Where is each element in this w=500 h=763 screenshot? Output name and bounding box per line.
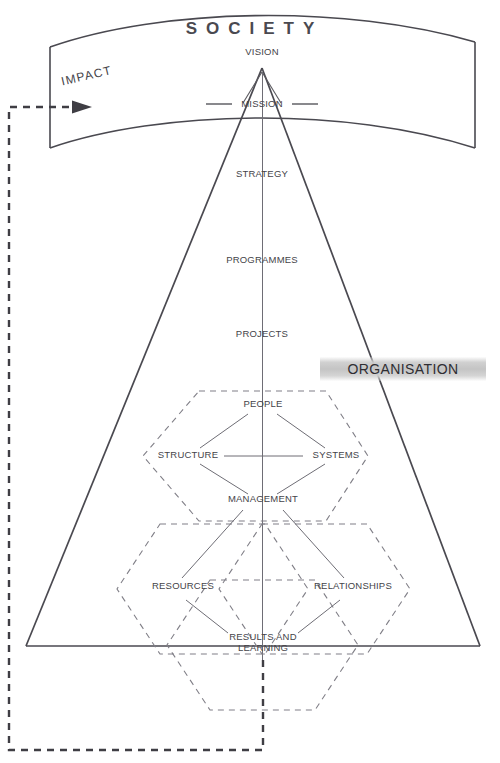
org-node-resources: RESOURCES — [141, 581, 225, 592]
connector-management-relationships — [283, 510, 344, 578]
pyramid-label-projects: PROJECTS — [212, 329, 312, 340]
connector-resources-results — [186, 600, 228, 633]
connector-people-structure — [200, 414, 248, 448]
org-node-management: MANAGEMENT — [213, 494, 313, 505]
pyramid-label-programmes: PROGRAMMES — [202, 255, 322, 266]
impact-arrowhead — [72, 101, 92, 114]
connector-people-systems — [277, 414, 325, 448]
pyramid-label-mission: MISSION — [212, 99, 312, 110]
connector-management-resources — [182, 510, 243, 578]
org-node-systems: SYSTEMS — [303, 450, 369, 461]
connector-structure-management — [200, 464, 248, 494]
connector-relationships-results — [298, 600, 340, 633]
results-label-line-2: LEARNING — [238, 642, 288, 653]
pyramid-label-vision: VISION — [212, 47, 312, 58]
pyramid-left-edge — [26, 68, 262, 646]
org-node-people: PEOPLE — [213, 399, 313, 410]
org-node-structure: STRUCTURE — [152, 450, 224, 461]
connector-systems-management — [277, 464, 325, 494]
org-node-results-and-learning: RESULTS AND LEARNING — [218, 631, 308, 653]
pyramid-label-strategy: STRATEGY — [212, 169, 312, 180]
results-label-line-1: RESULTS AND — [229, 631, 297, 642]
society-title: SOCIETY — [0, 19, 500, 39]
organisation-banner-label: ORGANISATION — [320, 361, 486, 377]
strategy-pyramid-diagram: SOCIETY IMPACT VISION MISSION STRATEGY P… — [0, 0, 500, 763]
org-node-relationships: RELATIONSHIPS — [303, 581, 403, 592]
